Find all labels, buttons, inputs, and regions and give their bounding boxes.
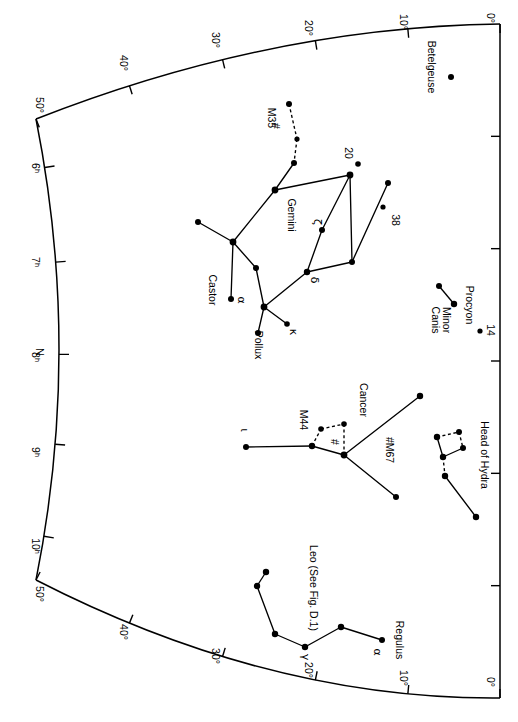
star-point	[272, 187, 279, 194]
object-label: #	[329, 439, 341, 445]
star-point	[436, 283, 442, 289]
constellation-line	[275, 175, 350, 190]
constellation-line	[258, 307, 264, 333]
constellation-line-dashed	[437, 432, 459, 437]
declination-tick-bottom	[408, 685, 409, 694]
star-point	[272, 631, 278, 637]
constellation-line	[350, 175, 352, 262]
star-point	[253, 265, 259, 271]
constellation-name: Leo (See Fig. D.1)	[308, 545, 320, 631]
star-point	[341, 421, 347, 427]
star-label: 38	[390, 214, 402, 226]
star-chart-canvas: 50°40°30°20°10°0°50°40°30°20°10°0°6h7h8h…	[0, 0, 518, 722]
constellation-line-dashed	[289, 104, 297, 139]
constellation-line	[231, 242, 233, 299]
constellation-name: Minor	[441, 307, 453, 334]
constellation-line	[246, 446, 312, 447]
star-point	[263, 569, 269, 575]
constellation-line	[233, 190, 275, 242]
constellation-line	[275, 163, 294, 190]
object-label: Regulus	[394, 621, 406, 660]
star-label: #M67	[384, 437, 396, 463]
north-marker: N	[34, 348, 46, 356]
bottom-border-arc	[36, 580, 500, 698]
ra-tick-6h	[45, 166, 55, 168]
star-point	[477, 328, 482, 333]
star-label: γ	[299, 654, 312, 661]
declination-tick-top	[315, 41, 316, 50]
constellation-line	[198, 222, 233, 242]
ra-label-10h: 10h	[30, 538, 42, 554]
star-point	[417, 393, 423, 399]
dec-label-bottom: 20°	[303, 662, 315, 678]
constellation-line	[307, 230, 322, 272]
dec-label-bottom: 30°	[210, 648, 222, 664]
dec-label-top: 10°	[398, 14, 410, 30]
ra-label-9h: 9h	[30, 447, 42, 457]
object-label: #	[270, 123, 282, 129]
constellation-name: Canis	[430, 307, 442, 334]
star-point	[286, 101, 292, 107]
constellation-line	[352, 183, 388, 262]
object-label: Castor	[207, 275, 219, 306]
object-label: Betelgeuse	[426, 41, 438, 94]
star-point	[440, 454, 446, 460]
declination-tick-top	[408, 29, 409, 38]
star-chart-figure: 50°40°30°20°10°0°50°40°30°20°10°0°6h7h8h…	[0, 0, 518, 722]
constellation-name: Gemini	[286, 198, 298, 231]
constellation-line	[233, 242, 256, 268]
constellation-line	[275, 634, 305, 647]
constellation-line	[439, 286, 454, 304]
star-point	[460, 445, 466, 451]
star-point	[302, 644, 308, 650]
star-point	[379, 637, 385, 643]
ra-tick-7h	[56, 261, 66, 262]
star-point	[304, 269, 310, 275]
star-point	[473, 514, 479, 520]
star-point	[195, 219, 201, 225]
star-label: κ	[287, 329, 300, 336]
constellation-line	[443, 448, 463, 457]
constellation-line	[312, 446, 344, 455]
chart-labels: 50°40°30°20°10°0°50°40°30°20°10°0°6h7h8h…	[30, 13, 497, 687]
star-label: 14	[485, 324, 497, 336]
dec-label-top: 40°	[118, 55, 130, 71]
star-point	[434, 434, 440, 440]
constellation-line-dashed	[294, 139, 297, 163]
object-label: Pollux	[253, 331, 265, 360]
ra-tick-10h	[44, 536, 54, 538]
star-point	[284, 321, 290, 327]
star-point	[393, 494, 399, 500]
ra-label-6h: 6h	[30, 163, 42, 173]
star-label: α	[371, 648, 384, 655]
star-point	[294, 136, 299, 141]
object-label: Procyon	[464, 286, 476, 325]
ra-tick-9h	[55, 444, 65, 445]
constellation-lines	[198, 104, 476, 647]
star-point	[442, 473, 448, 479]
constellation-line	[445, 476, 476, 517]
star-point	[228, 296, 234, 302]
star-point	[243, 444, 249, 450]
constellation-name: Head of Hydra	[479, 421, 491, 489]
dec-label-top: 50°	[34, 97, 46, 113]
star-point	[448, 74, 454, 80]
star-point	[347, 172, 354, 179]
star-point	[254, 583, 260, 589]
dec-label-top: 20°	[303, 20, 315, 36]
star-point	[309, 443, 315, 449]
constellation-line	[344, 396, 420, 455]
constellation-line-dashed	[321, 424, 344, 429]
constellation-name: Cancer	[358, 383, 370, 417]
dec-label-bottom: 40°	[118, 624, 130, 640]
dec-label-bottom: 0°	[485, 677, 497, 687]
dec-label-bottom: 50°	[34, 586, 46, 602]
star-point	[349, 259, 355, 265]
star-label: ι	[238, 428, 251, 432]
constellation-line	[322, 175, 350, 230]
star-point	[341, 452, 348, 459]
dec-label-bottom: 10°	[398, 670, 410, 686]
declination-tick-top	[223, 60, 225, 69]
star-label: ζ	[311, 219, 324, 225]
star-point	[355, 161, 361, 167]
